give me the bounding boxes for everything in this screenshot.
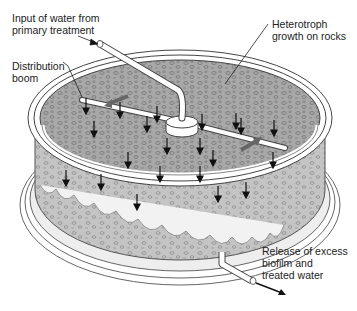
label-distribution-boom: Distribution boom [12,60,65,84]
label-input-water: Input of water from primary treatment [12,12,100,36]
label-heterotroph-growth: Heterotroph growth on rocks [272,18,346,42]
label-release-biofilm: Release of excess biofilm and treated wa… [262,245,348,281]
